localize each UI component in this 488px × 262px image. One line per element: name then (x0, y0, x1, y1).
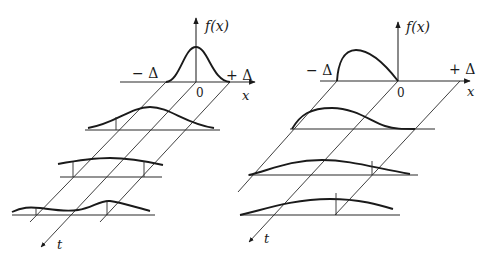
left-curve-row-0 (166, 47, 230, 82)
left-minus-delta-label: − Δ (132, 65, 158, 81)
right-oblique-plus-delta (335, 81, 460, 215)
right-t-label: t (264, 231, 270, 246)
right-curve-row-1 (292, 108, 415, 129)
left-time-axis (41, 82, 196, 247)
right-panel: f(x) − Δ + Δ 0 x t (238, 19, 475, 246)
right-curve-row-3 (240, 199, 393, 215)
left-oblique-plus-delta (100, 82, 230, 222)
left-oblique-minus-delta (30, 82, 166, 222)
left-t-label: t (57, 237, 63, 252)
left-x-label: x (242, 88, 250, 103)
left-fx-label: f(x) (204, 18, 229, 34)
right-minus-delta-label: − Δ (306, 62, 332, 78)
right-fx-label: f(x) (405, 19, 430, 35)
right-x-label: x (467, 84, 475, 99)
right-origin-label: 0 (397, 86, 405, 100)
right-plus-delta-label: + Δ (449, 61, 475, 77)
right-curve-row-2 (249, 160, 410, 175)
left-origin-label: 0 (196, 86, 204, 100)
left-curve-row-2 (58, 158, 163, 165)
left-plus-delta-label: + Δ (226, 67, 252, 83)
left-panel: f(x) − Δ + Δ 0 x t (12, 18, 255, 252)
right-curve-row-0 (337, 50, 398, 81)
right-time-axis (249, 81, 398, 242)
left-curve-row-3 (12, 201, 150, 212)
diagram-canvas: f(x) − Δ + Δ 0 x t f(x) − Δ + Δ 0 x t (0, 0, 488, 262)
left-curve-row-1 (88, 107, 214, 128)
